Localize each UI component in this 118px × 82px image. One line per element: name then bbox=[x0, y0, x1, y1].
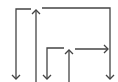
left-bracket-line bbox=[16, 9, 31, 79]
right-bracket-connector bbox=[42, 8, 114, 79]
arrow-diagram bbox=[0, 0, 118, 82]
inner-right-arrow-connector bbox=[75, 45, 108, 53]
left-bracket-connector bbox=[12, 9, 31, 79]
center-up-arrow-connector bbox=[32, 10, 40, 82]
inner-left-bracket-connector bbox=[43, 48, 64, 79]
inner-up-arrow-connector bbox=[65, 50, 73, 82]
right-bracket-line bbox=[42, 8, 110, 79]
inner-left-bracket-line bbox=[47, 48, 64, 79]
diagram-svg bbox=[0, 0, 118, 82]
